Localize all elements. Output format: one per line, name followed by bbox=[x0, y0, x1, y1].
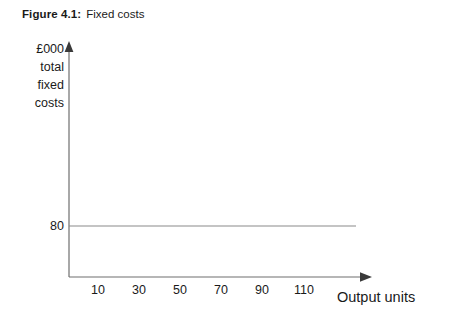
y-axis-title: £000 total fixed costs bbox=[8, 40, 64, 112]
figure-container: Figure 4.1:Fixed costs £000 total fixed … bbox=[0, 0, 456, 333]
y-axis-title-line-2: total bbox=[8, 58, 64, 76]
x-tick-label-10: 10 bbox=[81, 282, 115, 298]
x-tick-label-70: 70 bbox=[204, 282, 238, 298]
x-tick-label-30: 30 bbox=[122, 282, 156, 298]
x-axis-title: Output units bbox=[337, 288, 415, 306]
y-axis-title-line-4: costs bbox=[8, 94, 64, 112]
x-tick-label-90: 90 bbox=[245, 282, 279, 298]
x-axis-arrowhead bbox=[360, 272, 372, 282]
x-tick-label-50: 50 bbox=[163, 282, 197, 298]
y-axis-arrowhead bbox=[65, 41, 74, 52]
y-tick-label-80: 80 bbox=[14, 218, 64, 234]
x-tick-label-110: 110 bbox=[287, 282, 321, 298]
y-axis-title-line-1: £000 bbox=[8, 40, 64, 58]
y-axis-title-line-3: fixed bbox=[8, 76, 64, 94]
